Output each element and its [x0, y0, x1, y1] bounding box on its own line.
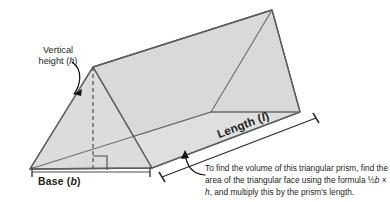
caption-line-1: To find the volume of this triangular pr…: [205, 163, 374, 173]
vertical-height-label: Verticalheight (h): [27, 45, 89, 67]
volume-explanation-caption: To find the volume of this triangular pr…: [205, 163, 389, 198]
vertical-height-paren-close: ): [74, 56, 77, 66]
base-label-text: Base (: [38, 176, 70, 187]
caption-formula-times: ×: [379, 175, 386, 185]
vertical-height-line2: height (: [39, 56, 70, 66]
base-paren-close: ): [77, 176, 81, 187]
base-label: Base (b): [38, 176, 81, 188]
prism-solid: [30, 10, 300, 169]
vertical-height-callout-arrow-icon: [72, 62, 82, 96]
caption-formula-half: ½: [368, 175, 375, 185]
caption-line-3-rest: , and multiply this by the prism's lengt…: [210, 187, 355, 197]
vertical-height-line1: Vertical: [43, 45, 73, 55]
